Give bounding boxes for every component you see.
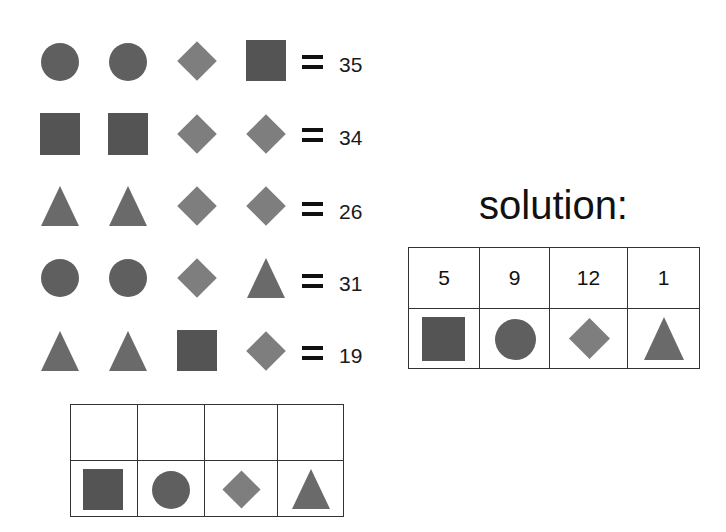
row-result: 35 <box>339 54 362 75</box>
answer-input-cell[interactable] <box>205 405 278 461</box>
answer-input-cell[interactable] <box>71 405 138 461</box>
triangle-icon <box>247 258 285 298</box>
solution-value: 12 <box>550 248 628 309</box>
circle-icon <box>109 259 147 297</box>
circle-icon <box>41 259 79 297</box>
diamond-icon <box>177 186 217 226</box>
solution-shape-cell <box>480 309 550 369</box>
circle-icon <box>152 471 190 509</box>
diamond-icon <box>177 114 217 154</box>
answer-shape-cell <box>138 461 205 517</box>
answer-input-cell[interactable] <box>278 405 344 461</box>
square-icon <box>177 330 217 371</box>
equals-icon <box>302 346 323 360</box>
diamond-icon <box>568 317 609 358</box>
row-result: 19 <box>339 345 362 366</box>
row-result: 31 <box>339 273 362 294</box>
equals-icon <box>302 128 323 142</box>
equals-icon <box>302 274 323 288</box>
answer-shape-cell <box>71 461 138 517</box>
square-icon <box>83 469 123 510</box>
diamond-icon <box>222 470 260 508</box>
circle-icon <box>41 43 79 81</box>
diamond-icon <box>246 186 286 226</box>
solution-shape-cell <box>550 309 628 369</box>
diamond-icon <box>246 114 286 154</box>
answer-shape-cell <box>205 461 278 517</box>
triangle-icon <box>644 317 684 360</box>
circle-icon <box>109 43 147 81</box>
row-result: 34 <box>339 127 362 148</box>
solution-shape-cell <box>409 309 480 369</box>
solution-shape-cell <box>628 309 700 369</box>
answer-shape-cell <box>278 461 344 517</box>
square-icon <box>422 317 465 361</box>
equals-icon <box>302 202 323 216</box>
equals-icon <box>302 55 323 69</box>
triangle-icon <box>41 331 79 371</box>
solution-title: solution: <box>479 185 628 225</box>
answer-table <box>70 404 344 517</box>
row-result: 26 <box>339 201 362 222</box>
solution-value: 1 <box>628 248 700 309</box>
answer-input-cell[interactable] <box>138 405 205 461</box>
diamond-icon <box>177 258 217 298</box>
diamond-icon <box>246 331 286 371</box>
triangle-icon <box>41 186 79 226</box>
square-icon <box>40 113 80 155</box>
square-icon <box>246 40 286 81</box>
circle-icon <box>495 319 536 360</box>
diamond-icon <box>177 41 217 81</box>
triangle-icon <box>109 331 147 371</box>
solution-table: 5 9 12 1 <box>408 247 700 369</box>
triangle-icon <box>109 186 147 226</box>
solution-value: 5 <box>409 248 480 309</box>
solution-value: 9 <box>480 248 550 309</box>
square-icon <box>108 113 148 155</box>
triangle-icon <box>292 469 330 509</box>
